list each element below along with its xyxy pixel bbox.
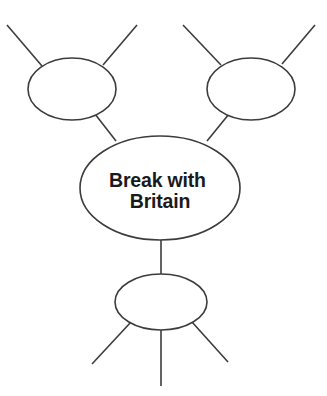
connector-center-to-top-left bbox=[95, 114, 116, 141]
branch-line-top-left-up-right bbox=[103, 25, 137, 65]
branch-line-top-right-up-left bbox=[183, 25, 221, 65]
node-label-center-line-2: Britain bbox=[130, 190, 190, 212]
concept-map-diagram: Break with Britain bbox=[0, 0, 327, 396]
connector-center-to-top-right bbox=[207, 114, 229, 141]
node-ellipse-top-right[interactable] bbox=[207, 58, 295, 120]
branch-line-top-right-up-right bbox=[282, 25, 315, 64]
node-ellipse-bottom[interactable] bbox=[115, 274, 207, 330]
branch-line-top-left-up-left bbox=[7, 25, 42, 66]
branch-line-bottom-down-right bbox=[192, 322, 228, 362]
branch-line-bottom-down-left bbox=[92, 322, 131, 364]
node-ellipse-top-left[interactable] bbox=[28, 58, 116, 120]
node-label-center-line-1: Break with bbox=[109, 169, 206, 191]
concept-map-canvas: Break with Britain bbox=[0, 0, 327, 396]
